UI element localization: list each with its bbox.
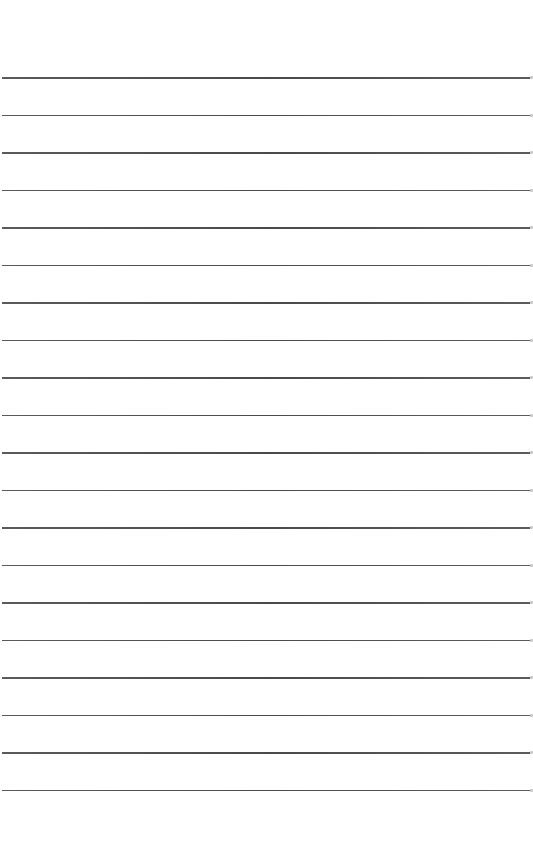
ruled-line xyxy=(2,415,530,417)
ruled-line xyxy=(2,565,530,567)
ruled-line xyxy=(2,677,530,679)
ruled-line xyxy=(2,452,530,454)
ruled-line xyxy=(2,227,530,229)
ruled-line xyxy=(2,715,530,717)
ruled-line xyxy=(2,302,530,304)
ruled-line xyxy=(2,265,530,267)
ruled-line xyxy=(2,640,530,642)
ruled-line xyxy=(2,77,530,79)
ruled-line xyxy=(2,527,530,529)
ruled-line xyxy=(2,490,530,492)
ruled-line xyxy=(2,602,530,604)
ruled-line xyxy=(2,152,530,154)
ruled-line xyxy=(2,790,530,792)
ruled-line xyxy=(2,377,530,379)
lined-paper-page xyxy=(0,0,533,865)
ruled-line xyxy=(2,190,530,192)
ruled-line xyxy=(2,752,530,754)
ruled-line xyxy=(2,340,530,342)
ruled-line xyxy=(2,115,530,117)
